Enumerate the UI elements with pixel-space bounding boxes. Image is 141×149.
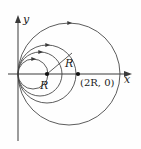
x-axis-label: x	[124, 74, 130, 85]
radius-label-center: R	[40, 80, 48, 91]
direction-arrow-4	[67, 21, 72, 25]
direction-arrow-3	[45, 43, 50, 47]
direction-arrow-1	[31, 57, 36, 61]
center-dot	[45, 72, 49, 76]
radius-label-line: R	[65, 58, 73, 69]
y-axis-arrow-icon	[15, 15, 21, 23]
diagram-canvas	[0, 0, 141, 149]
circle-family-diagram: y x R R (2R, 0)	[0, 0, 141, 149]
point-2R-dot	[76, 72, 80, 76]
y-axis-label: y	[23, 14, 29, 25]
direction-arrow-2	[38, 50, 43, 54]
point-2R-label: (2R, 0)	[80, 78, 114, 88]
axis-arrowheads	[15, 15, 132, 77]
